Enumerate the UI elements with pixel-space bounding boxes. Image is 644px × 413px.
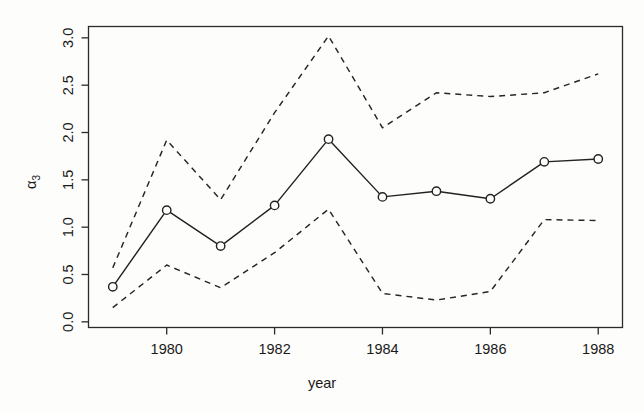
data-point-marker (540, 158, 548, 166)
data-point-marker (270, 201, 278, 209)
chart-background (0, 0, 644, 413)
y-tick-label: 0.5 (60, 264, 76, 284)
data-point-marker (216, 242, 224, 250)
y-axis-title-symbol: α (23, 181, 39, 189)
confidence-band-line-chart: 0.00.51.01.52.02.53.0 198019821984198619… (0, 0, 644, 413)
data-point-marker (324, 135, 332, 143)
data-point-marker (163, 206, 171, 214)
data-point-marker (432, 187, 440, 195)
data-point-marker (378, 193, 386, 201)
x-axis-title: year (308, 375, 336, 391)
x-tick-label: 1986 (474, 341, 506, 357)
data-point-marker (594, 155, 602, 163)
y-tick-label: 2.0 (60, 122, 76, 142)
x-tick-label: 1982 (258, 341, 290, 357)
x-tick-label: 1980 (151, 341, 183, 357)
y-tick-label: 2.5 (60, 75, 76, 95)
y-tick-label: 1.0 (60, 217, 76, 237)
y-tick-label: 1.5 (60, 170, 76, 190)
data-point-marker (486, 195, 494, 203)
data-point-marker (109, 283, 117, 291)
chart-figure: 0.00.51.01.52.02.53.0 198019821984198619… (0, 0, 644, 413)
y-tick-label: 0.0 (60, 312, 76, 332)
x-tick-label: 1988 (582, 341, 614, 357)
x-tick-label: 1984 (366, 341, 398, 357)
y-axis-title-subscript: 3 (30, 175, 42, 181)
y-tick-label: 3.0 (60, 28, 76, 48)
